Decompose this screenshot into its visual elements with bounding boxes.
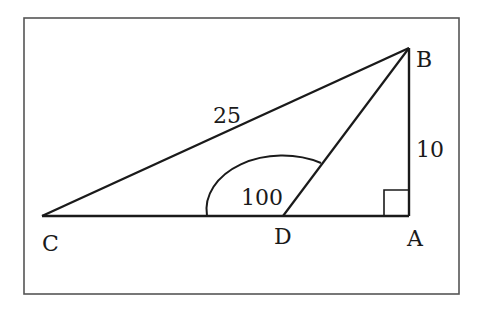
- figure-frame: [24, 18, 459, 294]
- right-angle-mark: [384, 190, 409, 216]
- side-cb-label: 25: [213, 103, 241, 128]
- angle-d-label: 100: [241, 185, 283, 210]
- side-ab-label: 10: [416, 137, 444, 162]
- point-c-label: C: [42, 231, 59, 256]
- point-a-label: A: [406, 226, 424, 251]
- point-d-label: D: [274, 224, 292, 249]
- segment-cb: [42, 48, 409, 216]
- geometry-diagram: 25 10 100 B C D A: [0, 0, 485, 310]
- point-b-label: B: [416, 47, 432, 72]
